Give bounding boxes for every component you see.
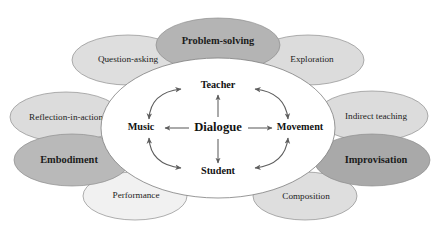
hub-node-movement: Movement <box>277 121 324 132</box>
improvisation-label: Improvisation <box>345 154 408 165</box>
hub-node-music: Music <box>128 121 155 132</box>
exploration-label: Exploration <box>290 54 334 64</box>
reflection-in-action-label: Reflection-in-action <box>29 112 103 122</box>
embodiment-label: Embodiment <box>40 154 98 165</box>
diagram-canvas: Reflection-in-action Question-asking Exp… <box>0 0 437 230</box>
question-asking-label: Question-asking <box>98 54 159 64</box>
composition-label: Composition <box>282 191 330 201</box>
performance-label: Performance <box>113 190 160 200</box>
problem-solving-label: Problem-solving <box>182 35 255 46</box>
hub-center-label: Dialogue <box>194 120 242 134</box>
hub-node-student: Student <box>201 165 236 176</box>
indirect-teaching-label: Indirect teaching <box>345 111 407 121</box>
hub-node-teacher: Teacher <box>201 79 236 90</box>
concept-diagram: Reflection-in-action Question-asking Exp… <box>0 0 437 230</box>
